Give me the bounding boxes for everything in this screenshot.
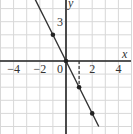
x-axis-label: x: [121, 47, 128, 61]
x-tick-label: 2: [89, 62, 95, 76]
y-axis-label: y: [67, 0, 74, 10]
x-tick-label: 0: [57, 62, 63, 76]
coordinate-plane: x y −4−2024 3: [0, 0, 133, 134]
data-point: [90, 111, 95, 116]
x-tick-label: −2: [33, 62, 46, 76]
x-tick-label: −4: [7, 62, 20, 76]
data-point: [51, 33, 56, 38]
y-tick-labels: 3: [57, 15, 63, 29]
y-tick-label: 3: [57, 15, 63, 29]
data-point: [77, 85, 82, 90]
data-point: [64, 59, 69, 64]
x-tick-label: 4: [115, 62, 121, 76]
